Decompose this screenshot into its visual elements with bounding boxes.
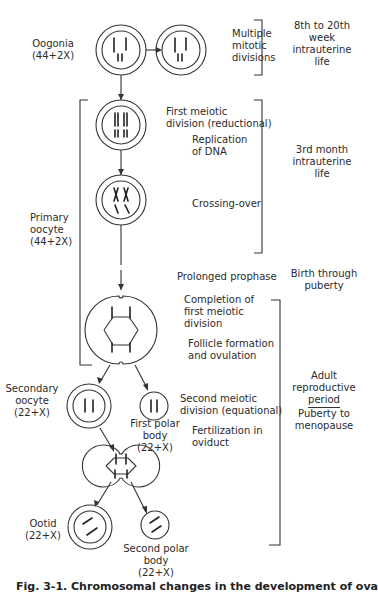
label-ootid: Ootid (22+X) bbox=[18, 518, 68, 542]
first-polar-body-karyotype: (22+X) bbox=[126, 442, 184, 454]
event-replication-line1: Replication bbox=[192, 134, 247, 146]
event-prolonged-prophase: Prolonged prophase bbox=[177, 271, 277, 283]
event-replication: Replication of DNA bbox=[192, 134, 247, 158]
oogonia-cell-nucleus bbox=[102, 31, 140, 69]
timing-3rd-month: 3rd month intrauterine life bbox=[282, 144, 362, 180]
mitotic-cell-nucleus bbox=[162, 31, 200, 69]
timing-t1-line1: 8th to 20th bbox=[282, 20, 362, 32]
event-replication-line2: of DNA bbox=[192, 146, 247, 158]
timing-t3-line2: puberty bbox=[284, 280, 364, 292]
timing-8th-20th-week: 8th to 20th week intrauterine life bbox=[282, 20, 362, 68]
primary-oocyte-karyotype: (44+2X) bbox=[30, 236, 72, 248]
event-mitotic-line1: Multiple bbox=[232, 28, 275, 40]
event-completion: Completion of first meiotic division bbox=[184, 294, 254, 330]
figure-caption: Fig. 3-1. Chromosomal changes in the dev… bbox=[16, 580, 378, 593]
event-second-meiotic-line1: Second meiotic bbox=[180, 393, 282, 405]
label-first-polar-body: First polar body (22+X) bbox=[126, 418, 184, 454]
timing-t4-line2: reproductive bbox=[286, 382, 362, 394]
event-first-meiotic-line2: division (reductional) bbox=[166, 118, 272, 130]
event-first-meiotic-line1: First meiotic bbox=[166, 106, 272, 118]
primary-oocyte-name: Primary bbox=[30, 212, 72, 224]
secondary-oocyte-name: Secondary bbox=[2, 383, 62, 395]
oogonia-karyotype: (44+2X) bbox=[18, 50, 88, 62]
event-completion-line2: first meiotic bbox=[184, 306, 254, 318]
label-primary-oocyte: Primary oocyte (44+2X) bbox=[30, 212, 72, 248]
timing-t2-line1: 3rd month bbox=[282, 144, 362, 156]
secondary-oocyte-karyotype: (22+X) bbox=[2, 407, 62, 419]
timing-adult-reproductive: Adult reproductive period Puberty to men… bbox=[286, 370, 362, 432]
second-polar-body-name2: body bbox=[118, 555, 194, 567]
first-polar-body-name2: body bbox=[126, 430, 184, 442]
second-polar-body-karyotype: (22+X) bbox=[118, 567, 194, 579]
secondary-oocyte-name2: oocyte bbox=[2, 395, 62, 407]
event-mitotic-line3: divisions bbox=[232, 52, 275, 64]
oogonia-cell-outer bbox=[96, 25, 146, 75]
event-follicle-line2: and ovulation bbox=[188, 350, 274, 362]
timing-t1-line3: intrauterine bbox=[282, 44, 362, 56]
event-mitotic-line2: mitotic bbox=[232, 40, 275, 52]
event-crossing-over: Crossing-over bbox=[192, 198, 261, 210]
mitotic-cell-outer bbox=[156, 25, 206, 75]
event-follicle: Follicle formation and ovulation bbox=[188, 338, 274, 362]
event-mitotic: Multiple mitotic divisions bbox=[232, 28, 275, 64]
timing-t2-line2: intrauterine bbox=[282, 156, 362, 168]
timing-t1-line4: life bbox=[282, 56, 362, 68]
label-secondary-oocyte: Secondary oocyte (22+X) bbox=[2, 383, 62, 419]
oogonia-name: Oogonia bbox=[18, 38, 88, 50]
timing-t3-line1: Birth through bbox=[284, 268, 364, 280]
event-second-meiotic-line2: division (equational) bbox=[180, 405, 282, 417]
timing-t1-line2: week bbox=[282, 32, 362, 44]
event-completion-line1: Completion of bbox=[184, 294, 254, 306]
first-polar-body-name: First polar bbox=[126, 418, 184, 430]
timing-t4b-line1: Puberty to bbox=[286, 408, 362, 420]
label-second-polar-body: Second polar body (22+X) bbox=[118, 543, 194, 579]
event-first-meiotic: First meiotic division (reductional) bbox=[166, 106, 272, 130]
event-completion-line3: division bbox=[184, 318, 254, 330]
event-fertilization: Fertilization in oviduct bbox=[192, 425, 263, 449]
label-oogonia: Oogonia (44+2X) bbox=[18, 38, 88, 62]
timing-t4b-line2: menopause bbox=[286, 420, 362, 432]
event-follicle-line1: Follicle formation bbox=[188, 338, 274, 350]
second-polar-body-name: Second polar bbox=[118, 543, 194, 555]
event-fertilization-line1: Fertilization in bbox=[192, 425, 263, 437]
event-second-meiotic: Second meiotic division (equational) bbox=[180, 393, 282, 417]
ootid-name: Ootid bbox=[18, 518, 68, 530]
adult-bracket bbox=[269, 300, 280, 545]
timing-t2-line3: life bbox=[282, 168, 362, 180]
primary-oocyte-bracket bbox=[80, 100, 92, 365]
timing-birth-puberty: Birth through puberty bbox=[284, 268, 364, 292]
timing-t4-line1: Adult bbox=[286, 370, 362, 382]
ootid-karyotype: (22+X) bbox=[18, 530, 68, 542]
event-fertilization-line2: oviduct bbox=[192, 437, 263, 449]
primary-oocyte-name2: oocyte bbox=[30, 224, 72, 236]
timing-t4-line3: period bbox=[308, 394, 340, 408]
